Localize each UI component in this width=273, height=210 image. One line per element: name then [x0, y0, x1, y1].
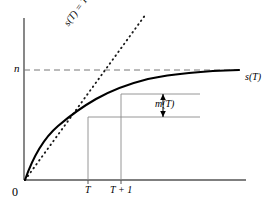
x-tick-label-T: T	[85, 185, 91, 195]
x-tick-label-T-plus-1: T + 1	[110, 185, 132, 195]
chart-canvas	[0, 0, 273, 210]
y-axis-label-n: n	[14, 63, 20, 74]
diagonal-reference-line	[25, 14, 146, 180]
increment-arrow-lower-head	[160, 111, 166, 117]
curve-s-of-T	[25, 70, 239, 180]
origin-label: 0	[12, 186, 18, 198]
curve-label-s-of-T: s(T)	[245, 72, 261, 82]
increment-label-m-of-T: m(T)	[155, 99, 174, 109]
chart-figure: n 0 s(T) s(T) = T m(T) T T + 1	[0, 0, 273, 210]
